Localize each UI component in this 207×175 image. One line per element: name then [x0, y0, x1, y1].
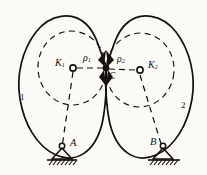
- pivot-k1: [70, 65, 76, 71]
- radius-line-rho2: [109, 69, 136, 70]
- body-1-outline: [19, 16, 107, 158]
- label-rho1: ρ1: [83, 53, 91, 63]
- label-body-1: 1: [20, 93, 25, 102]
- support-b-triangle: [153, 148, 173, 159]
- mechanism-diagram: [0, 0, 207, 175]
- label-body-2: 2: [181, 101, 186, 110]
- figure-root: K1 K2 ρ1 ρ2 C A B 1 2: [0, 0, 207, 175]
- label-k2: K2: [148, 60, 158, 70]
- label-rho2: ρ2: [117, 54, 125, 64]
- label-k1: K1: [55, 58, 65, 68]
- link-k1-to-a: [62, 72, 73, 147]
- pivot-k2: [137, 67, 143, 73]
- label-support-a: A: [70, 138, 76, 149]
- label-support-b: B: [150, 137, 156, 148]
- label-contact-c: C: [109, 72, 115, 82]
